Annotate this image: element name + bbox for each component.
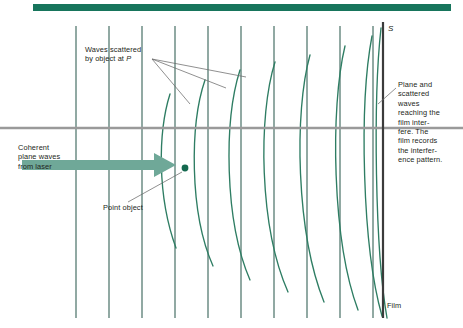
point-object-leader-line	[128, 172, 182, 202]
scattered-wavefront-arc	[376, 28, 387, 318]
scattered-wavefront-arc	[194, 80, 213, 266]
waves-scattered-line2: by object at P	[85, 54, 131, 63]
point-object-label: Point object	[103, 203, 143, 212]
scattered-wavefront-arc	[336, 46, 358, 310]
holography-diagram: Waves scatteredby object at P Plane and …	[0, 0, 463, 328]
plane-scattered-leader-line	[378, 88, 396, 104]
waves-scattered-label: Waves scatteredby object at P	[85, 45, 141, 64]
scattered-wavefront-arc	[229, 70, 250, 280]
film-label: Film	[387, 301, 401, 310]
point-object-marker	[182, 165, 189, 172]
waves-scattered-line1: Waves scattered	[85, 45, 141, 54]
scattered-wavefront-arc	[264, 62, 288, 292]
callout-leader-line	[152, 59, 190, 104]
plane-wavefront-group	[76, 26, 373, 318]
top-rule	[33, 4, 451, 11]
callout-leader-line	[152, 59, 246, 77]
plane-scattered-waves-label: Plane and scattered waves reaching the f…	[398, 80, 462, 165]
callout-leader-line	[152, 59, 226, 88]
callout-leader-group	[128, 59, 396, 202]
scattered-wavefront-arc	[300, 55, 324, 302]
point-label-p: P	[126, 54, 131, 63]
source-axis-label: S	[388, 24, 393, 33]
coherent-source-label: Coherent plane waves from laser	[18, 143, 80, 171]
